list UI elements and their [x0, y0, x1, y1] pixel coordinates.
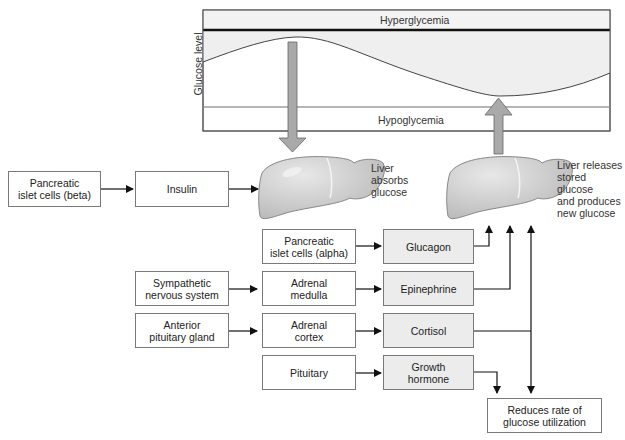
liver-right-icon — [447, 157, 573, 219]
liver-releases-label: Liver releases stored glucose and produc… — [557, 159, 625, 219]
glucose-chart — [203, 10, 610, 131]
box-anterior-pituitary: Anterior pituitary gland — [135, 313, 229, 348]
box-glucagon: Glucagon — [383, 229, 474, 264]
box-adrenal-cortex: Adrenal cortex — [262, 313, 356, 348]
box-alpha-cells: Pancreatic islet cells (alpha) — [262, 229, 356, 264]
box-cortisol: Cortisol — [383, 313, 474, 348]
y-axis-label: Glucose level — [192, 24, 204, 104]
box-beta-cells: Pancreatic islet cells (beta) — [8, 171, 101, 207]
box-adrenal-medulla: Adrenal medulla — [262, 271, 356, 306]
box-sympathetic: Sympathetic nervous system — [135, 271, 229, 306]
box-pituitary: Pituitary — [262, 355, 356, 390]
liver-absorbs-label: Liver absorbs glucose — [371, 162, 408, 198]
box-reduces-utilization: Reduces rate of glucose utilization — [487, 398, 602, 433]
hypoglycemia-label: Hypoglycemia — [378, 114, 444, 126]
liver-left-icon — [259, 157, 385, 219]
box-insulin: Insulin — [135, 171, 229, 207]
hyperglycemia-label: Hyperglycemia — [380, 14, 449, 26]
box-epinephrine: Epinephrine — [383, 271, 474, 306]
box-growth-hormone: Growth hormone — [383, 355, 474, 390]
